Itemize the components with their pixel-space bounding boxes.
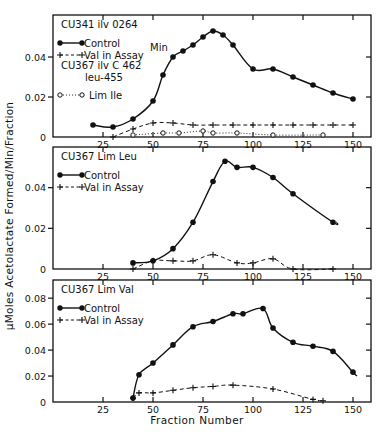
data-point-dot — [190, 324, 196, 330]
data-point-plus — [150, 258, 156, 264]
legend-label: Control — [84, 170, 120, 181]
panel-top: 25507510012515000.020.04CU341 ilv 0264Co… — [25, 15, 371, 150]
y-tick-label: 0.04 — [25, 182, 46, 193]
legend-label: Val in Assay — [84, 50, 144, 61]
data-point-dot — [290, 74, 296, 80]
data-point-dot — [310, 82, 316, 88]
data-point-dot — [230, 311, 236, 317]
data-point-dot — [90, 122, 96, 128]
data-point-plus — [150, 390, 156, 396]
y-tick-label: 0.04 — [25, 345, 46, 356]
x-tick-label: 100 — [244, 404, 262, 415]
data-point-plus — [270, 122, 276, 128]
data-point-circle — [161, 131, 165, 135]
data-point-plus — [290, 122, 296, 128]
data-point-plus — [234, 260, 240, 266]
data-point-dot — [200, 34, 206, 40]
panel-middle: 25507510012515000.020.04CU367 Lim LeuCon… — [25, 147, 371, 282]
panel-title: CU367 Lim Val — [61, 284, 134, 295]
data-point-dot — [250, 165, 256, 171]
data-point-circle — [271, 133, 275, 137]
y-tick-label: 0.02 — [25, 223, 46, 234]
data-point-plus — [130, 266, 136, 272]
series-control — [90, 28, 356, 130]
y-tick-label: 0 — [40, 264, 46, 275]
acetolactate-figure: 25507510012515000.020.04CU341 ilv 0264Co… — [0, 0, 392, 440]
data-point-dot — [290, 339, 296, 345]
data-point-plus — [230, 382, 236, 388]
data-point-dot — [270, 175, 276, 181]
data-point-dot — [170, 246, 176, 252]
data-point-dot — [290, 191, 296, 197]
data-point-plus — [190, 258, 196, 264]
strain-label: CU367 ilv C 462 — [61, 60, 141, 71]
data-point-dot — [110, 124, 116, 130]
series-val-in-assay — [130, 382, 326, 404]
data-point-dot — [150, 98, 156, 104]
x-tick-label: 25 — [97, 404, 109, 415]
data-point-dot — [170, 54, 176, 60]
data-point-plus — [270, 386, 276, 392]
data-point-dot — [150, 360, 156, 366]
data-point-plus — [210, 252, 216, 258]
data-point-circle — [177, 131, 181, 135]
data-point-circle — [321, 133, 325, 137]
data-point-dot — [130, 116, 136, 122]
legend-label: Val in Assay — [84, 182, 144, 193]
y-axis-label: μMoles Acetolactate Formed/Min/Fraction — [3, 102, 15, 331]
y-tick-label: 0.08 — [25, 293, 46, 304]
data-point-plus — [150, 120, 156, 126]
legend-label: Control — [84, 303, 120, 314]
x-tick-label: 150 — [344, 404, 362, 415]
panel-title: CU341 ilv 0264 — [61, 19, 138, 30]
data-point-dot — [190, 219, 196, 225]
data-point-plus — [310, 122, 316, 128]
data-point-plus — [210, 383, 216, 389]
data-point-dot — [136, 372, 142, 378]
data-point-dot — [222, 158, 228, 164]
data-point-dot — [330, 90, 336, 96]
data-point-plus — [320, 398, 326, 404]
data-point-dot — [240, 311, 246, 317]
data-point-plus — [170, 258, 176, 264]
panel-title: CU367 Lim Leu — [61, 151, 137, 162]
data-point-dot — [190, 42, 196, 48]
plot-frame — [53, 147, 371, 269]
data-point-plus — [190, 122, 196, 128]
data-point-plus — [136, 390, 142, 396]
data-point-plus — [270, 256, 276, 262]
data-point-dot — [330, 219, 336, 225]
legend: CU367 Lim ValControlVal in Assay — [57, 284, 144, 326]
data-point-dot — [250, 66, 256, 72]
data-point-dot — [270, 325, 276, 331]
data-point-dot — [270, 66, 276, 72]
data-point-circle — [211, 131, 215, 135]
chart-panels: 25507510012515000.020.04CU341 ilv 0264Co… — [25, 15, 371, 415]
series-lim-ile — [131, 129, 325, 137]
y-tick-label: 0.04 — [25, 52, 46, 63]
data-point-dot — [230, 42, 236, 48]
x-tick-label: 125 — [294, 404, 312, 415]
data-point-circle — [131, 133, 135, 137]
y-tick-label: 0 — [40, 397, 46, 408]
data-point-dot — [180, 48, 186, 54]
data-point-dot — [350, 96, 356, 102]
panel-annotation: Min — [150, 42, 168, 53]
data-point-circle — [235, 131, 239, 135]
data-point-plus — [190, 385, 196, 391]
y-tick-label: 0.02 — [25, 371, 46, 382]
data-point-plus — [250, 260, 256, 266]
data-point-plus — [110, 134, 116, 140]
y-tick-label: 0 — [40, 132, 46, 143]
strain-label: leu-455 — [85, 72, 123, 83]
data-point-plus — [130, 126, 136, 132]
data-point-plus — [170, 387, 176, 393]
data-point-plus — [330, 266, 336, 272]
series-control — [130, 158, 338, 265]
legend-label: Val in Assay — [84, 315, 144, 326]
legend: CU367 Lim LeuControlVal in Assay — [57, 151, 144, 193]
y-tick-label: 0.06 — [25, 319, 46, 330]
legend-label: Lim Ile — [89, 90, 122, 101]
x-axis-label: Fraction Number — [150, 414, 244, 426]
data-point-plus — [170, 120, 176, 126]
